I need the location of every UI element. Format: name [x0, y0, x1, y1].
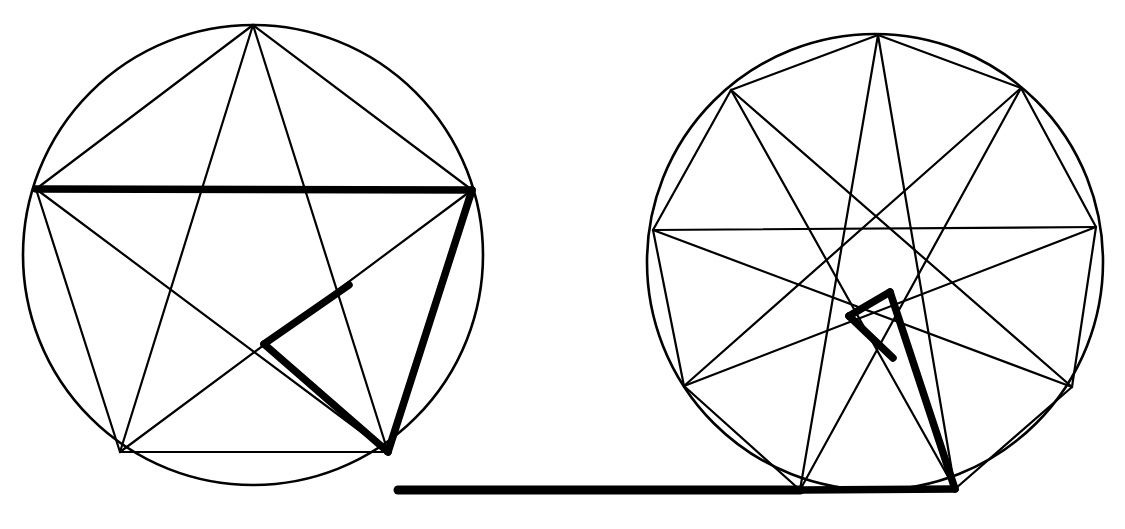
canvas-background [0, 0, 1125, 529]
diagram-canvas [0, 0, 1125, 529]
left-to-right-chord [36, 189, 472, 190]
bottom-chord [800, 489, 955, 490]
